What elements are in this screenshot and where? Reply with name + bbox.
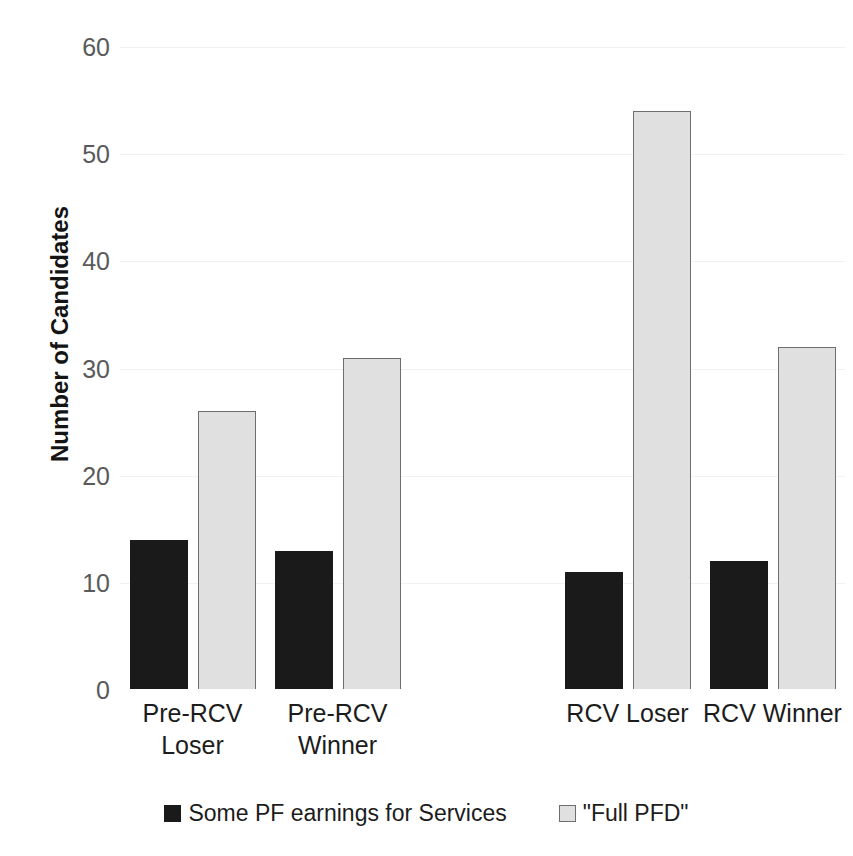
legend-item-label: Some PF earnings for Services (188, 800, 506, 827)
y-axis-tick-label: 60 (58, 35, 110, 60)
x-axis-category-label-line: RCV Winner (700, 697, 845, 729)
gridline (120, 369, 845, 370)
x-axis-category-label-line: Winner (265, 729, 410, 761)
y-axis-tick-label: 30 (58, 356, 110, 381)
bar (343, 358, 401, 690)
x-axis-category-labels: Pre-RCVLoserPre-RCVWinnerRCV LoserRCV Wi… (120, 697, 845, 783)
plot-area (120, 47, 845, 690)
gridline (120, 47, 845, 48)
y-axis-tick-label: 50 (58, 142, 110, 167)
bar (710, 561, 768, 690)
x-axis-category-label: Pre-RCVLoser (120, 697, 265, 761)
y-axis-tick-label: 10 (58, 570, 110, 595)
bar (198, 411, 256, 690)
chart-legend: Some PF earnings for Services"Full PFD" (0, 800, 853, 827)
bar (130, 540, 188, 690)
x-axis-category-label-line: Loser (120, 729, 265, 761)
y-axis-tick-labels: 0102030405060 (48, 47, 110, 690)
y-axis-tick-label: 0 (58, 678, 110, 703)
x-axis-category-label-line: Pre-RCV (265, 697, 410, 729)
x-axis-category-label: RCV Loser (555, 697, 700, 729)
bar-chart: Number of Candidates 0102030405060 Pre-R… (0, 0, 853, 856)
legend-swatch-icon (164, 805, 181, 822)
legend-swatch-icon (559, 805, 576, 822)
legend-item-label: "Full PFD" (583, 800, 689, 827)
x-axis-category-label: RCV Winner (700, 697, 845, 729)
legend-item[interactable]: "Full PFD" (559, 800, 689, 827)
x-axis-category-label-line: Pre-RCV (120, 697, 265, 729)
gridline (120, 154, 845, 155)
legend-item[interactable]: Some PF earnings for Services (164, 800, 506, 827)
x-axis-category-label-line: RCV Loser (555, 697, 700, 729)
gridline (120, 261, 845, 262)
x-axis-baseline (120, 689, 845, 690)
bar (275, 551, 333, 690)
y-axis-tick-label: 20 (58, 463, 110, 488)
x-axis-category-label: Pre-RCVWinner (265, 697, 410, 761)
y-axis-tick-label: 40 (58, 249, 110, 274)
bar (633, 111, 691, 690)
bar (565, 572, 623, 690)
bar (778, 347, 836, 690)
